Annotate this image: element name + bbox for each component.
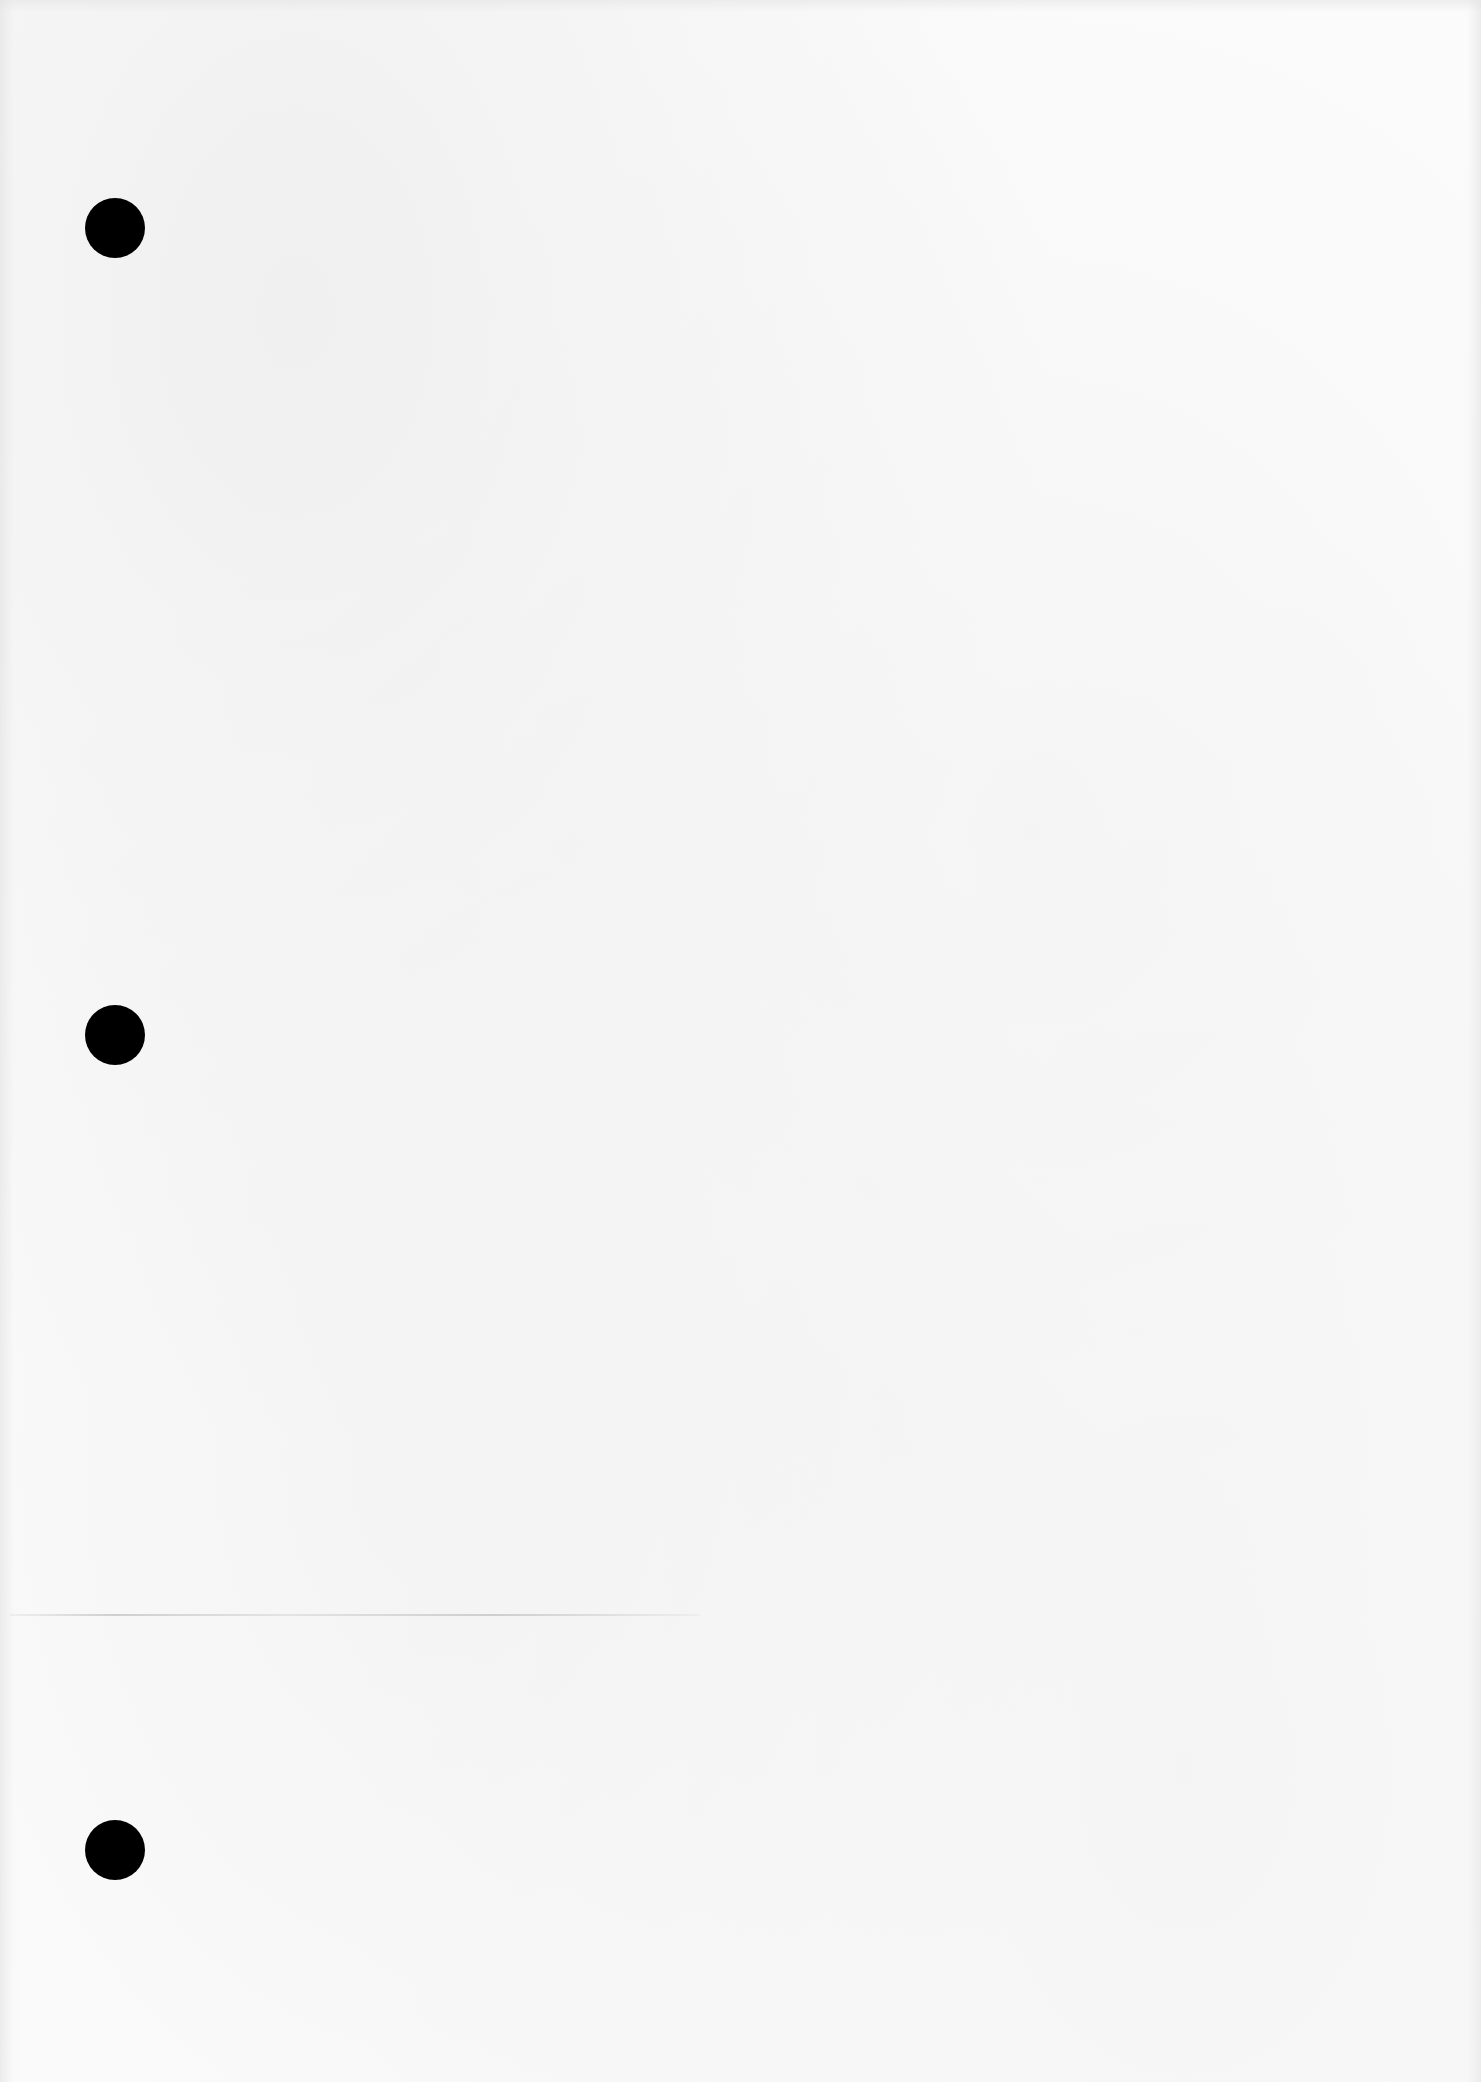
punch-hole-top: [85, 198, 145, 258]
punch-hole-middle: [85, 1005, 145, 1065]
scanned-page: [0, 0, 1481, 2082]
punch-hole-bottom: [85, 1820, 145, 1880]
scan-artifact-line: [10, 1614, 700, 1616]
